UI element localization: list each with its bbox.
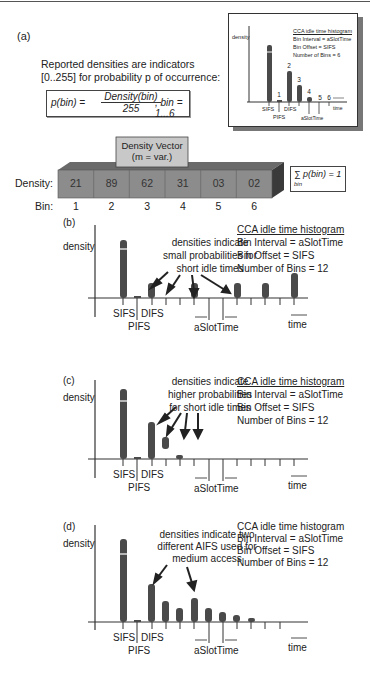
- slot-time-label: aSlotTime: [194, 645, 239, 656]
- density-cell: 21: [58, 177, 94, 189]
- inset-histogram: 1 2 3 4 5 6 density CCA idle time histog…: [228, 13, 358, 127]
- density-cell: 62: [129, 177, 165, 189]
- time-axis-label: time: [288, 480, 307, 491]
- intro-line-2: [0..255] for probability p of occurrence…: [41, 71, 220, 83]
- bin-cell: 6: [236, 200, 272, 212]
- pifs-label: PIFS: [128, 482, 150, 493]
- inset-line-3: Number of Bins = 6: [293, 52, 340, 58]
- panel-b: (b) density densities indicate small pro…: [0, 225, 370, 370]
- time-axis-label: time: [288, 642, 307, 653]
- density-cell: 03: [201, 177, 237, 189]
- top-rule: [0, 1, 370, 2]
- inset-title: CCA idle time histogram: [293, 28, 352, 34]
- density-row-label: Density:: [15, 177, 53, 189]
- intro-line-1: Reported densities are indicators: [41, 58, 195, 70]
- bin-cell: 1: [58, 200, 94, 212]
- inset-line-2: Bin Offset = SIFS: [293, 44, 336, 50]
- sifs-label: SIFS: [113, 632, 135, 643]
- inset-y-label: density: [232, 34, 249, 40]
- density-values: 21 89 62 31 03 02: [58, 177, 272, 189]
- panel-c: (c) density densities indicate higher pr…: [0, 375, 370, 520]
- sifs-label: SIFS: [113, 469, 135, 480]
- pifs-label: PIFS: [128, 645, 150, 656]
- histogram-chart: [0, 375, 370, 520]
- formula-box: p(bin) = Density(bin) 255 , bin = 1...6: [46, 90, 190, 117]
- bin-cell: 4: [165, 200, 201, 212]
- vector-title-line-2: (m = var.): [116, 151, 188, 162]
- difs-label: DIFS: [141, 469, 164, 480]
- slot-time-label: aSlotTime: [194, 322, 239, 333]
- sum-formula-box: ∑ p(bin) = 1 bin: [290, 166, 346, 192]
- svg-text:3: 3: [297, 76, 301, 83]
- svg-text:1: 1: [277, 91, 281, 98]
- bin-row-label: Bin:: [35, 200, 53, 212]
- svg-text:6: 6: [327, 94, 331, 101]
- density-cell: 89: [94, 177, 130, 189]
- vector-title-line-1: Density Vector: [116, 140, 188, 151]
- difs-label: DIFS: [141, 632, 164, 643]
- inset-line-1: Bin Interval = aSlotTime: [293, 36, 351, 42]
- svg-text:4: 4: [307, 88, 311, 95]
- sum-formula: ∑ p(bin) = 1: [294, 169, 341, 179]
- formula-rhs: , bin = 1...6: [155, 97, 189, 119]
- formula-lhs: p(bin) =: [51, 97, 85, 108]
- pifs-label: PIFS: [128, 321, 150, 332]
- vector-title: Density Vector (m = var.): [116, 140, 188, 162]
- panel-a-label: (a): [17, 30, 30, 42]
- bin-cell: 5: [201, 200, 237, 212]
- density-cell: 02: [236, 177, 272, 189]
- formula-numerator: Density(bin): [101, 91, 161, 103]
- bin-values: 1 2 3 4 5 6: [58, 200, 272, 212]
- density-cell: 31: [165, 177, 201, 189]
- slot-time-label: aSlotTime: [194, 483, 239, 494]
- histogram-chart: [0, 525, 370, 675]
- bin-cell: 2: [94, 200, 130, 212]
- difs-label: DIFS: [141, 308, 164, 319]
- time-axis-label: time: [288, 319, 307, 330]
- histogram-chart: [0, 225, 370, 370]
- inset-sifs: SIFS: [262, 106, 274, 112]
- sifs-label: SIFS: [113, 308, 135, 319]
- inset-difs: DIFS: [284, 106, 297, 112]
- svg-text:2: 2: [287, 62, 291, 69]
- sum-subscript: bin: [294, 181, 302, 187]
- inset-time: time: [333, 105, 342, 111]
- svg-text:5: 5: [318, 94, 322, 101]
- inset-slot: aSlotTime: [301, 115, 323, 121]
- inset-pifs: PIFS: [273, 114, 285, 120]
- formula-denominator: 255: [101, 103, 161, 114]
- bin-cell: 3: [129, 200, 165, 212]
- panel-d: (d) density densities indicate two diffe…: [0, 525, 370, 675]
